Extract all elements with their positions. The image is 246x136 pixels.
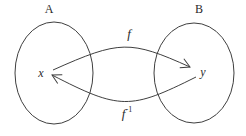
arrow-f-inverse-label: f-1	[122, 107, 132, 120]
set-b-ellipse	[154, 23, 234, 123]
element-x-label: x	[38, 67, 43, 79]
arrow-f-label: f	[127, 27, 131, 40]
set-b-label: B	[195, 3, 203, 15]
function-inverse-diagram: A B x y f f-1	[0, 0, 246, 136]
arrow-f-inverse-superscript: -1	[125, 105, 132, 114]
element-y-label: y	[200, 66, 205, 78]
arrow-f	[53, 47, 190, 70]
set-a-label: A	[45, 3, 54, 15]
arrow-f-inverse	[52, 75, 196, 102]
set-a-ellipse	[15, 22, 93, 124]
